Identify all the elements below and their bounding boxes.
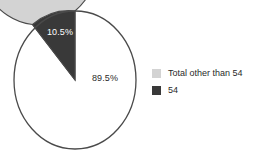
legend-swatch-icon-total-other-than-54 [152,69,161,78]
legend-label-54: 54 [168,85,178,96]
legend: Total other than 54 54 [152,66,252,100]
legend-swatch-icon-54 [152,86,161,95]
pie-svg: 10.5% 89.5% [0,0,150,158]
legend-item-54[interactable]: 54 [152,83,252,98]
slice-label-total-other-than-54: 89.5% [92,73,118,83]
slice-label-54: 10.5% [47,27,73,37]
pie-plot-area: 10.5% 89.5% [0,0,150,158]
pie-slice-54[interactable] [33,11,76,80]
legend-item-total-other-than-54[interactable]: Total other than 54 [152,66,252,81]
legend-label-total-other-than-54: Total other than 54 [168,68,243,79]
pie-chart-figure: 10.5% 89.5% Total other than 54 54 [0,0,253,158]
